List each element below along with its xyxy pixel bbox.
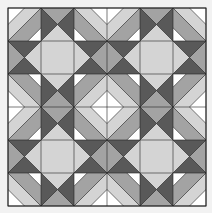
quilt-pattern xyxy=(0,0,212,213)
